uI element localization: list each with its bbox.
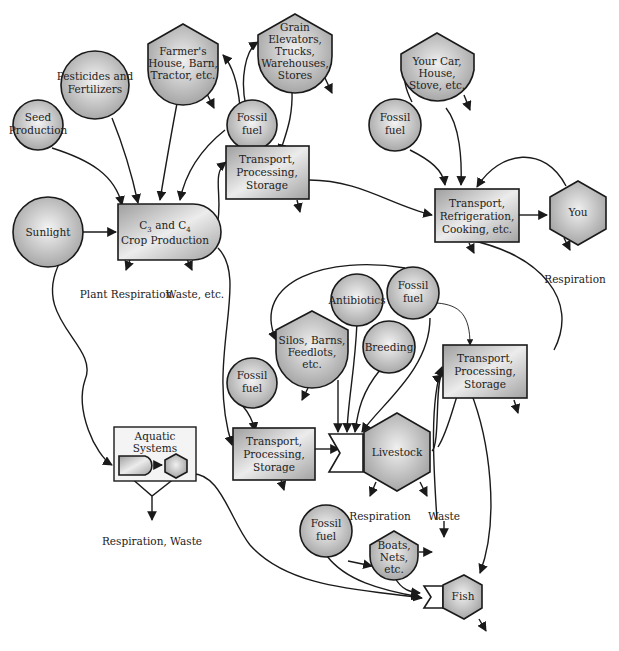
label-line: Storage — [253, 461, 295, 473]
label-line: Antibiotics — [327, 294, 385, 306]
node-fossil-fuel-household: Fossil fuel — [369, 99, 421, 151]
label-line: Transport, — [239, 153, 295, 165]
label-line: Cooking, etc. — [442, 223, 512, 235]
label-line: Fertilizers — [68, 83, 122, 95]
label-line: Farmer's — [159, 45, 206, 57]
label-line: fuel — [242, 124, 263, 136]
node-crop-production: C3 and C4 Crop Production — [118, 204, 221, 260]
label-line: Elevators, — [268, 33, 322, 45]
label-line: fuel — [385, 124, 406, 136]
node-sunlight: Sunlight — [13, 197, 83, 267]
node-grain-elevators: Grain Elevators, Trucks, Warehouses, Sto… — [258, 14, 332, 93]
label-line: Processing, — [243, 448, 304, 460]
caption-livestock-respiration: Respiration — [349, 510, 411, 522]
node-transport-refrigeration-cooking: Transport, Refrigeration, Cooking, etc. — [435, 189, 519, 242]
label-line: Silos, Barns, — [279, 334, 346, 346]
caption-you-respiration: Respiration — [544, 273, 606, 285]
label-line: Systems — [133, 442, 177, 454]
label-line: fuel — [242, 382, 263, 394]
node-seed-production: Seed Production — [9, 100, 68, 150]
node-transport-processing-storage-livestock: Transport, Processing, Storage — [443, 345, 527, 398]
node-fossil-fuel-livestock: Fossil fuel — [387, 267, 439, 319]
label-line: Boats, — [377, 539, 410, 551]
label-line: Sunlight — [25, 226, 71, 238]
label-line: Nets, — [380, 551, 408, 563]
caption-aquatic-respiration-waste: Respiration, Waste — [102, 535, 202, 547]
label-line: Pesticides and — [57, 70, 134, 82]
node-aquatic-systems: Aquatic Systems — [114, 427, 196, 481]
label-line: Tractor, etc. — [151, 69, 216, 81]
label-line: Transport, — [449, 197, 505, 209]
node-fish: Fish — [424, 575, 482, 619]
node-fossil-fuel-feed: Fossil fuel — [227, 358, 277, 408]
food-energy-diagram: Seed Production Pesticides and Fertilize… — [0, 0, 619, 651]
label-line: Aquatic — [134, 430, 176, 442]
label-line: Fossil — [237, 369, 268, 381]
label-line: Fish — [452, 590, 475, 602]
label-line: Grain — [280, 21, 310, 33]
node-fossil-fuel-fishing: Fossil fuel — [300, 505, 352, 557]
node-silos-barns-feedlots: Silos, Barns, Feedlots, etc. — [276, 311, 348, 388]
node-fossil-fuel-crops: Fossil fuel — [227, 100, 277, 150]
label-line: Processing, — [454, 365, 515, 377]
label-line: Breeding — [365, 341, 414, 353]
node-boats-nets: Boats, Nets, etc. — [370, 531, 418, 580]
label-line: Fossil — [380, 111, 411, 123]
label-line: Transport, — [457, 352, 513, 364]
node-farmers-house: Farmer's House, Barn, Tractor, etc. — [148, 24, 218, 105]
label-line: Livestock — [372, 446, 423, 458]
label-line: Seed — [25, 111, 52, 123]
label-line: Storage — [246, 179, 288, 191]
label-line: etc. — [384, 563, 404, 575]
label-line: Fossil — [237, 111, 268, 123]
node-livestock: Livestock — [329, 413, 430, 491]
label-line: House, — [418, 67, 455, 79]
label-line: Crop Production — [121, 234, 209, 246]
label-line: House, Barn, — [148, 57, 218, 69]
label-line: fuel — [316, 530, 337, 542]
node-transport-processing-storage-feed: Transport, Processing, Storage — [233, 428, 315, 480]
node-you: You — [550, 181, 606, 245]
label-line: Fossil — [398, 279, 429, 291]
node-breeding: Breeding — [363, 321, 415, 373]
label-line: fuel — [403, 292, 424, 304]
caption-waste-etc: Waste, etc. — [166, 288, 224, 300]
node-transport-processing-storage-crops: Transport, Processing, Storage — [226, 146, 309, 199]
label-line: Transport, — [246, 435, 302, 447]
node-pesticides-fertilizers: Pesticides and Fertilizers — [57, 51, 134, 119]
label-line: Refrigeration, — [440, 210, 515, 222]
label-line: You — [567, 206, 587, 218]
label-line: Storage — [464, 378, 506, 390]
node-antibiotics: Antibiotics — [327, 274, 385, 326]
label-line: Your Car, — [412, 55, 462, 67]
label-line: Stove, etc. — [409, 79, 465, 91]
label-line: Feedlots, — [288, 346, 337, 358]
caption-livestock-waste: Waste — [428, 510, 460, 522]
label-line: Warehouses, — [261, 57, 329, 69]
label-line: etc. — [302, 358, 322, 370]
node-your-car-house-stove: Your Car, House, Stove, etc. — [401, 33, 474, 101]
label-line: Stores — [278, 69, 312, 81]
label-line: Processing, — [236, 166, 297, 178]
label-line: Trucks, — [275, 45, 315, 57]
label-line: Production — [9, 124, 68, 136]
caption-plant-respiration: Plant Respiration — [80, 288, 173, 300]
label-line: Fossil — [311, 517, 342, 529]
